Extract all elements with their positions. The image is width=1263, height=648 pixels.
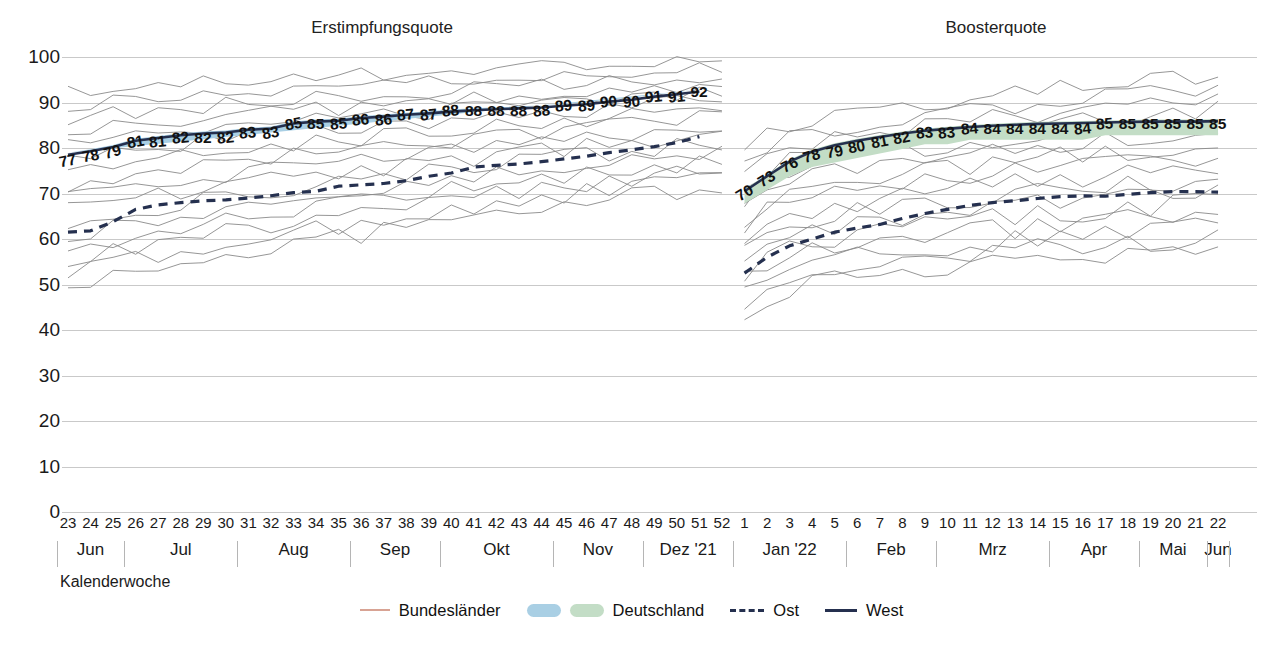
week-tick-label: 1 <box>740 514 748 531</box>
week-tick-label: 4 <box>808 514 816 531</box>
bundeslaender-line <box>745 176 1219 245</box>
week-tick-label: 21 <box>1187 514 1204 531</box>
legend-swatch-ost <box>730 609 764 612</box>
week-tick-label: 27 <box>150 514 167 531</box>
week-tick-label: 42 <box>488 514 505 531</box>
value-label: 77 <box>57 150 77 171</box>
month-label: Apr <box>1081 540 1107 560</box>
value-label: 83 <box>260 123 280 144</box>
value-label: 91 <box>667 87 686 107</box>
week-tick-label: 17 <box>1097 514 1114 531</box>
legend-swatch-bundeslaender <box>360 609 390 611</box>
week-tick-label: 51 <box>691 514 708 531</box>
value-label: 84 <box>1006 120 1023 138</box>
value-label: 85 <box>329 114 348 134</box>
legend-pill-blue <box>527 604 561 617</box>
bundeslaender-line <box>745 247 1219 320</box>
week-tick-label: 22 <box>1210 514 1227 531</box>
y-axis-tick: 40 <box>39 319 60 341</box>
value-label: 88 <box>510 102 527 120</box>
week-tick-label: 48 <box>623 514 640 531</box>
week-tick-label: 45 <box>556 514 573 531</box>
value-label: 89 <box>577 96 596 116</box>
month-label: Aug <box>278 540 308 560</box>
legend-swatch-west <box>825 609 857 612</box>
value-label: 84 <box>1029 120 1046 138</box>
month-label: Mrz <box>978 540 1006 560</box>
bundeslaender-line <box>745 132 1219 203</box>
value-label: 84 <box>1051 120 1068 138</box>
value-label: 88 <box>532 101 551 121</box>
value-label: 87 <box>396 105 415 125</box>
y-axis-tick: 70 <box>39 183 60 205</box>
month-labels: JunJulAugSepOktNovDez '21Jan '22FebMrzAp… <box>62 540 1257 570</box>
week-tick-label: 19 <box>1142 514 1159 531</box>
week-tick-label: 40 <box>443 514 460 531</box>
month-separator <box>1229 541 1230 567</box>
month-label: Jan '22 <box>762 540 816 560</box>
ost-line <box>68 137 699 233</box>
value-label: 85 <box>1141 115 1158 133</box>
value-label: 88 <box>487 102 504 120</box>
month-label: Feb <box>876 540 905 560</box>
bundeslaender-line <box>68 166 722 266</box>
week-tick-label: 38 <box>398 514 415 531</box>
axis-caption: Kalenderwoche <box>60 573 170 591</box>
week-tick-label: 41 <box>466 514 483 531</box>
month-label: Nov <box>583 540 613 560</box>
week-tick-label: 20 <box>1165 514 1182 531</box>
bundeslaender-line <box>68 186 722 288</box>
month-label: Okt <box>483 540 509 560</box>
week-tick-label: 30 <box>218 514 235 531</box>
y-axis-tick: 10 <box>39 456 60 478</box>
month-label: Jul <box>170 540 192 560</box>
value-label: 85 <box>1164 115 1181 133</box>
value-label: 86 <box>351 110 370 130</box>
legend-pill-green <box>570 604 604 617</box>
value-label: 85 <box>283 114 303 135</box>
gridline <box>62 512 1257 513</box>
week-tick-label: 16 <box>1074 514 1091 531</box>
week-tick-label: 39 <box>420 514 437 531</box>
month-separator <box>237 541 238 567</box>
legend-item-ost[interactable]: Ost <box>730 601 799 620</box>
value-label: 80 <box>847 136 867 157</box>
bundeslaender-line <box>68 57 722 96</box>
month-separator <box>936 541 937 567</box>
week-tick-label: 7 <box>876 514 884 531</box>
week-tick-label: 15 <box>1052 514 1069 531</box>
week-tick-label: 33 <box>285 514 302 531</box>
y-axis-tick: 90 <box>39 92 60 114</box>
week-tick-label: 3 <box>785 514 793 531</box>
value-label: 88 <box>465 102 482 120</box>
y-axis-tick: 80 <box>39 137 60 159</box>
value-label: 83 <box>915 124 934 144</box>
legend: BundesländerDeutschlandOstWest <box>0 596 1263 624</box>
legend-item-deutschland[interactable]: Deutschland <box>527 601 705 620</box>
bundeslaender-line <box>745 210 1219 272</box>
month-separator <box>1207 541 1208 567</box>
legend-item-bundeslaender[interactable]: Bundesländer <box>360 601 501 620</box>
y-axis-tick: 0 <box>49 501 60 523</box>
legend-label: Ost <box>773 601 799 620</box>
month-label: Dez '21 <box>660 540 717 560</box>
week-tick-label: 31 <box>240 514 257 531</box>
y-axis-tick: 50 <box>39 274 60 296</box>
week-tick-label: 9 <box>921 514 929 531</box>
month-label: Jun <box>1204 540 1231 560</box>
month-separator <box>643 541 644 567</box>
month-separator <box>553 541 554 567</box>
week-tick-label: 26 <box>127 514 144 531</box>
value-label: 84 <box>984 120 1001 138</box>
y-axis-tick: 100 <box>28 46 60 68</box>
value-label: 78 <box>80 146 100 167</box>
week-tick-label: 11 <box>962 514 978 531</box>
value-label: 84 <box>960 119 979 139</box>
week-tick-label: 47 <box>601 514 618 531</box>
week-tick-label: 34 <box>308 514 325 531</box>
legend-item-west[interactable]: West <box>825 601 903 620</box>
week-tick-label: 35 <box>330 514 347 531</box>
value-label: 85 <box>1119 115 1136 133</box>
week-tick-label: 50 <box>669 514 686 531</box>
ost-line <box>745 192 1219 273</box>
